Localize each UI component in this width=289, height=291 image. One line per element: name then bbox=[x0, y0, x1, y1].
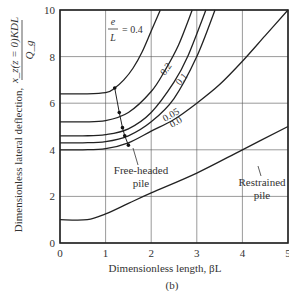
curve-restrained-pile bbox=[60, 127, 288, 221]
curve-label-0.2: 0.2 bbox=[158, 61, 174, 78]
x-tick-label: 3 bbox=[194, 247, 200, 259]
locus-point bbox=[121, 126, 125, 130]
x-tick-label: 0 bbox=[57, 247, 63, 259]
param-e: e bbox=[111, 16, 116, 27]
y-tick-label: 8 bbox=[50, 51, 56, 63]
y-tick-label: 6 bbox=[50, 97, 56, 109]
panel-label: (b) bbox=[166, 279, 179, 291]
y-axis-label-group: Dimensionless lateral deflection, bbox=[12, 88, 24, 233]
y-axis-ticks: 0246810 bbox=[44, 4, 56, 249]
locus-point bbox=[113, 86, 117, 90]
y-axis-label: Dimensionless lateral deflection, bbox=[12, 88, 24, 233]
annotation-restrained-2: pile bbox=[254, 189, 271, 201]
annotation-free-headed-2: pile bbox=[133, 177, 150, 189]
free-headed-leader bbox=[133, 148, 138, 165]
y-tick-label: 4 bbox=[50, 144, 56, 156]
x-tick-label: 4 bbox=[240, 247, 246, 259]
x-axis-ticks: 012345 bbox=[57, 247, 289, 259]
x-tick-label: 2 bbox=[148, 247, 154, 259]
y-axis-fraction: x_z(z = 0)KDL Q_g bbox=[8, 17, 35, 84]
restrained-leader bbox=[258, 166, 261, 176]
annotation-free-headed: Free-headed bbox=[114, 164, 169, 176]
param-eq: = 0.4 bbox=[122, 24, 143, 35]
y-axis-fraction-den: Q_g bbox=[23, 40, 35, 59]
y-tick-label: 10 bbox=[44, 4, 56, 16]
param-L: L bbox=[109, 32, 116, 43]
curve-label-0.1: 0.1 bbox=[173, 71, 189, 88]
y-tick-label: 0 bbox=[50, 237, 56, 249]
y-axis-fraction-num: x_z(z = 0)KDL bbox=[8, 17, 21, 84]
y-tick-label: 2 bbox=[50, 190, 56, 202]
locus-point bbox=[123, 134, 127, 138]
x-axis-label: Dimensionless length, βL bbox=[109, 262, 222, 274]
locus-point bbox=[127, 143, 131, 147]
locus-point bbox=[117, 111, 121, 115]
x-tick-label: 1 bbox=[103, 247, 109, 259]
x-tick-label: 5 bbox=[285, 247, 289, 259]
annotation-restrained: Restrained bbox=[238, 176, 286, 188]
pile-deflection-chart: 012345 0246810 e L = 0.4 0.2 0.1 0.05 0.… bbox=[0, 0, 289, 291]
